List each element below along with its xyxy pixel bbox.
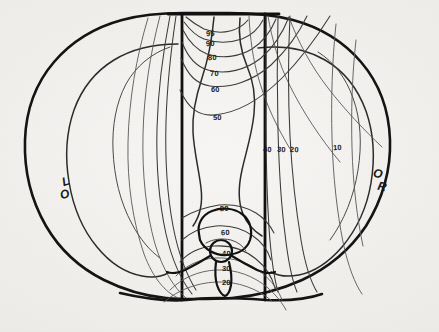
isodose-label: 30: [277, 146, 286, 154]
lung-left: [67, 44, 178, 277]
isodose-label: 40: [263, 146, 272, 154]
isodose-label: 90: [206, 40, 215, 48]
isodose-20-posterior: [170, 270, 286, 310]
isodose-label: 95: [206, 30, 215, 38]
isodose-left-c: [143, 16, 186, 298]
isodose-label: 80: [208, 54, 217, 62]
isodose-plot: .body-out{fill:none;stroke:#141414;strok…: [0, 0, 439, 332]
lung-right: [258, 47, 373, 276]
isodose-figure: .body-out{fill:none;stroke:#141414;strok…: [0, 0, 439, 332]
isodose-label: 70: [210, 70, 219, 78]
isodose-label: 60: [211, 86, 220, 94]
lamina-right: [232, 256, 275, 273]
isodose-label: 10: [333, 144, 342, 152]
isodose-label: 60: [221, 229, 230, 237]
isodose-label: 40: [222, 250, 231, 258]
isodose-label: 80: [220, 205, 229, 213]
isodose-label: 30: [222, 265, 231, 273]
isodose-left-b: [157, 16, 192, 294]
isodose-label: 50: [213, 114, 222, 122]
isodose-label: 20: [290, 146, 299, 154]
isodose-label: 20: [222, 279, 231, 287]
isodose-20: [289, 16, 318, 292]
